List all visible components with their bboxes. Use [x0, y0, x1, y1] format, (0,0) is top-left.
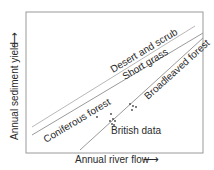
sediment-yield-diagram: Desert and scrub Short grass Broadleaved… [0, 0, 214, 170]
y-axis-label: Annual sediment yield [9, 42, 20, 140]
british-data-label: British data [111, 125, 161, 136]
x-axis-arrow-icon: ⟶ [143, 153, 159, 165]
x-axis-label: Annual river flow [75, 154, 150, 165]
coniferous-label: Coniferous forest [41, 96, 112, 145]
y-axis-arrow-icon: ⟶ [8, 32, 20, 48]
short-grass-line [32, 33, 203, 135]
